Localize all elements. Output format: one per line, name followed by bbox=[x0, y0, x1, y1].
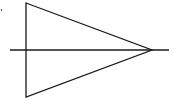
triangle-diagram bbox=[0, 0, 174, 101]
stray-dot-mark bbox=[1, 9, 3, 11]
